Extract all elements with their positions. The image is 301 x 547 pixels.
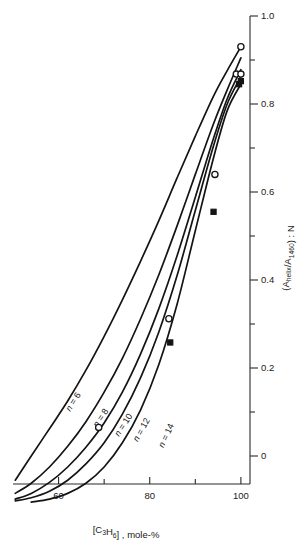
y-tick-label: 0.4 <box>261 274 274 285</box>
curve-label-text: n = 12 <box>131 416 152 443</box>
x-tick-label: 80 <box>144 490 155 501</box>
chart-curves <box>15 47 241 502</box>
chart-curve-labels: n = 6n = 8n = 10n = 12n = 14 <box>64 390 177 449</box>
data-point-filled <box>168 340 173 345</box>
x-axis-title: [C3H6] , mole-% <box>93 524 160 540</box>
x-tick-label: 100 <box>233 490 249 501</box>
curve-label-6: n = 6 <box>64 390 83 413</box>
curve-label-14: n = 14 <box>156 422 176 449</box>
data-point-open <box>212 171 218 177</box>
y-axis-ticks <box>250 16 258 456</box>
chart-svg: 6080100 00.20.40.60.81.0 n = 6n = 8n = 1… <box>0 0 301 547</box>
y-axis-tick-labels: 00.20.40.60.81.0 <box>261 10 274 461</box>
data-point-filled <box>211 209 216 214</box>
y-axis-title: (Ahelix/A1460) : N <box>280 225 296 291</box>
y-tick-label: 0.2 <box>261 362 274 373</box>
y-tick-label: 0 <box>261 450 266 461</box>
data-point-open <box>238 44 244 50</box>
data-point-open <box>166 316 172 322</box>
chart-figure: 6080100 00.20.40.60.81.0 n = 6n = 8n = 1… <box>0 0 301 547</box>
y-tick-label: 0.8 <box>261 98 274 109</box>
curve-label-12: n = 12 <box>131 416 152 443</box>
x-axis-tick-labels: 6080100 <box>53 490 249 501</box>
x-axis-title-text: [C3H6] , mole-% <box>93 524 160 540</box>
data-point-open <box>96 424 102 430</box>
y-tick-label: 1.0 <box>261 10 274 21</box>
y-tick-label: 0.6 <box>261 186 274 197</box>
y-axis-title-text: (Ahelix/A1460) : N <box>280 225 296 291</box>
curve-label-text: n = 6 <box>64 390 83 413</box>
data-point-filled <box>238 79 243 84</box>
data-point-open <box>238 71 244 77</box>
curve-label-text: n = 14 <box>156 422 176 449</box>
